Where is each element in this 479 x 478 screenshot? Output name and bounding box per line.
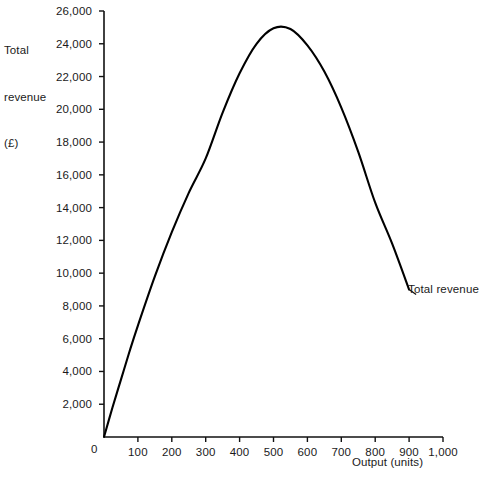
origin-tick-label: 0 [91,443,97,455]
y-axis-tick-label: 24,000 [0,38,92,50]
y-axis-tick-label: 22,000 [0,71,92,83]
x-axis-tick-label: 1,000 [428,446,458,458]
axes [99,11,443,442]
series-line-total-revenue [104,27,409,437]
y-axis-tick-label: 4,000 [0,365,92,377]
y-axis-tick-label: 6,000 [0,333,92,345]
y-axis-tick-label: 14,000 [0,202,92,214]
x-axis-tick-label: 700 [331,446,351,458]
x-axis-tick-label: 600 [298,446,318,458]
y-axis-tick-label: 12,000 [0,234,92,246]
revenue-curve [104,27,409,437]
y-axis-tick-label: 8,000 [0,300,92,312]
x-axis-tick-label: 100 [128,446,148,458]
x-axis-tick-label: 200 [162,446,182,458]
x-axis-tick-label: 800 [365,446,385,458]
y-axis-tick-label: 16,000 [0,169,92,181]
x-axis-tick-label: 500 [264,446,284,458]
x-axis-tick-label: 400 [230,446,250,458]
x-axis-tick-label: 300 [196,446,216,458]
y-axis-tick-label: 18,000 [0,136,92,148]
x-axis-tick-label: 900 [399,446,419,458]
chart-figure: Total revenue (£) Output (units) 0 Total… [0,0,479,478]
y-axis-tick-label: 2,000 [0,398,92,410]
series-annotation-total-revenue: Total revenue [408,283,479,295]
y-axis-tick-label: 20,000 [0,103,92,115]
y-axis-tick-label: 26,000 [0,5,92,17]
y-axis-tick-label: 10,000 [0,267,92,279]
